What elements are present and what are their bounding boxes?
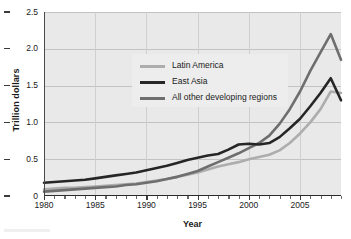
x-tick-minor bbox=[157, 196, 158, 199]
x-tick-minor bbox=[280, 196, 281, 199]
x-tick-minor bbox=[177, 196, 178, 199]
y-axis-title: Trillion dollars bbox=[11, 45, 21, 155]
chart-figure: Trillion dollars Year 00.51.01.52.02.5 1… bbox=[0, 0, 351, 239]
legend-swatch bbox=[140, 81, 165, 84]
x-tick-minor bbox=[341, 196, 342, 199]
legend-label: East Asia bbox=[172, 76, 207, 87]
x-tick-minor bbox=[167, 196, 168, 199]
y-tick bbox=[4, 195, 10, 196]
x-tick-label: 1995 bbox=[181, 201, 215, 210]
x-tick-label: 1990 bbox=[129, 201, 163, 210]
x-tick-minor bbox=[290, 196, 291, 199]
legend-label: All other developing regions bbox=[172, 92, 277, 103]
x-tick-minor bbox=[187, 196, 188, 199]
legend-swatch bbox=[140, 97, 165, 100]
x-tick-minor bbox=[136, 196, 137, 199]
y-tick-label: 1.0 bbox=[14, 118, 38, 127]
x-tick-minor bbox=[228, 196, 229, 199]
y-tick bbox=[4, 85, 10, 86]
x-tick-label: 2000 bbox=[232, 201, 266, 210]
y-tick-label: 0.5 bbox=[14, 155, 38, 164]
x-tick-minor bbox=[269, 196, 270, 199]
x-tick-minor bbox=[105, 196, 106, 199]
page-artifact bbox=[4, 229, 50, 232]
plot-area: Latin AmericaEast AsiaAll other developi… bbox=[44, 12, 341, 196]
x-tick-minor bbox=[259, 196, 260, 199]
y-tick-label: 2.0 bbox=[14, 44, 38, 53]
x-tick-minor bbox=[64, 196, 65, 199]
x-tick-minor bbox=[116, 196, 117, 199]
x-tick-label: 1985 bbox=[78, 201, 112, 210]
x-tick-minor bbox=[310, 196, 311, 199]
x-tick-minor bbox=[85, 196, 86, 199]
y-tick bbox=[4, 122, 10, 123]
x-tick-minor bbox=[321, 196, 322, 199]
x-tick-minor bbox=[331, 196, 332, 199]
x-tick-minor bbox=[54, 196, 55, 199]
y-tick-label: 1.5 bbox=[14, 81, 38, 90]
x-tick-minor bbox=[239, 196, 240, 199]
y-tick bbox=[4, 159, 10, 160]
x-tick-minor bbox=[218, 196, 219, 199]
x-axis-title: Year bbox=[44, 219, 341, 229]
x-tick-label: 1980 bbox=[27, 201, 61, 210]
y-tick bbox=[4, 48, 10, 49]
y-tick-label: 0 bbox=[14, 192, 38, 201]
legend-label: Latin America bbox=[172, 60, 224, 71]
x-tick-minor bbox=[75, 196, 76, 199]
legend-swatch bbox=[140, 65, 165, 68]
y-tick-label: 2.5 bbox=[14, 8, 38, 17]
x-tick-minor bbox=[126, 196, 127, 199]
legend: Latin AmericaEast AsiaAll other developi… bbox=[132, 54, 288, 107]
x-tick-minor bbox=[208, 196, 209, 199]
y-tick bbox=[4, 11, 10, 12]
x-tick-label: 2005 bbox=[283, 201, 317, 210]
